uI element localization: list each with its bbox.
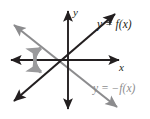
y-axis-label: y bbox=[73, 7, 78, 18]
label-y-equals-f-of-x: y = f(x) bbox=[97, 19, 132, 31]
label-y-equals-negative-f-of-x: y = −f(x) bbox=[93, 83, 135, 95]
function-reflection-diagram: y x y = f(x) y = −f(x) bbox=[0, 0, 150, 119]
x-axis-label: x bbox=[119, 62, 124, 73]
curve-negative-f-of-x bbox=[14, 25, 117, 107]
